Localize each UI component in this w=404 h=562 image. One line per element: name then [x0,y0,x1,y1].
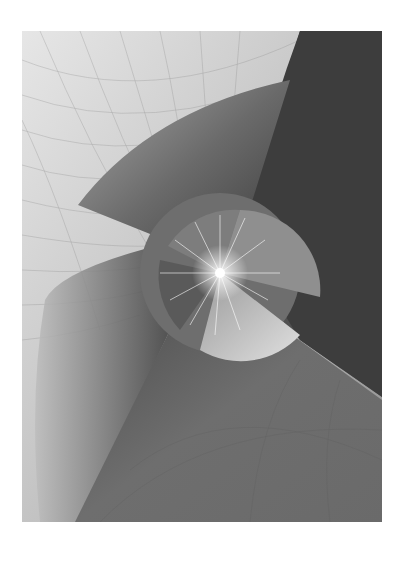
artwork-frame [22,31,382,522]
light-source [215,268,225,278]
abstract-artwork [0,0,404,562]
